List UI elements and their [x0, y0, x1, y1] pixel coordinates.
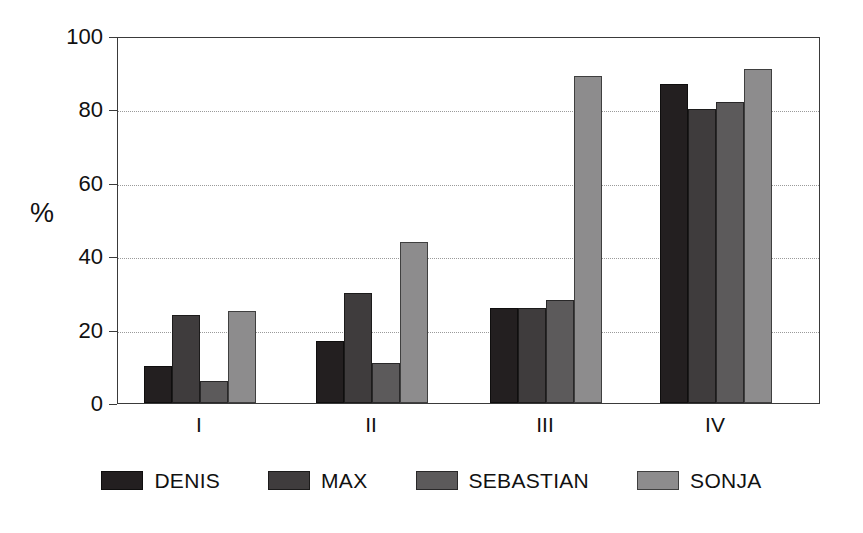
- y-axis-tick: [109, 331, 117, 332]
- bar-max-iv: [688, 109, 716, 403]
- x-axis-tick-label-i: I: [159, 414, 239, 435]
- y-axis-tick-label: 100: [0, 26, 103, 48]
- bar-denis-iv: [660, 84, 688, 403]
- legend-swatch-sebastian: [416, 471, 458, 490]
- y-axis-tick-label: 20: [0, 320, 103, 342]
- bar-sebastian-ii: [372, 363, 400, 403]
- bar-sebastian-iv: [716, 102, 744, 403]
- bar-max-iii: [518, 308, 546, 403]
- bar-sonja-iv: [744, 69, 772, 403]
- legend-swatch-sonja: [637, 471, 679, 490]
- bar-sebastian-iii: [546, 300, 574, 403]
- bar-max-i: [172, 315, 200, 403]
- bar-sebastian-i: [200, 381, 228, 403]
- legend-label: SONJA: [690, 470, 762, 491]
- chart-legend: DENISMAXSEBASTIANSONJA: [0, 470, 863, 491]
- bar-sonja-ii: [400, 242, 428, 403]
- legend-item-max: MAX: [268, 470, 367, 491]
- y-axis-tick-label: 0: [0, 393, 103, 415]
- x-axis-tick-label-iv: IV: [675, 414, 755, 435]
- y-axis-tick: [109, 404, 117, 405]
- bar-sonja-iii: [574, 76, 602, 403]
- x-axis-tick-label-ii: II: [331, 414, 411, 435]
- y-axis-tick: [109, 110, 117, 111]
- bar-denis-ii: [316, 341, 344, 403]
- y-axis-tick-label: 40: [0, 246, 103, 268]
- legend-item-sebastian: SEBASTIAN: [416, 470, 590, 491]
- bar-sonja-i: [228, 311, 256, 403]
- x-axis-tick-label-iii: III: [505, 414, 585, 435]
- bar-denis-iii: [490, 308, 518, 403]
- y-axis-tick: [109, 184, 117, 185]
- legend-label: MAX: [321, 470, 367, 491]
- y-axis-tick: [109, 257, 117, 258]
- bar-chart: % 020406080100 IIIIIIIV DENISMAXSEBASTIA…: [0, 0, 863, 533]
- bar-max-ii: [344, 293, 372, 403]
- plot-area: [117, 37, 820, 404]
- legend-item-sonja: SONJA: [637, 470, 762, 491]
- legend-item-denis: DENIS: [101, 470, 220, 491]
- y-axis-tick: [109, 37, 117, 38]
- legend-swatch-max: [268, 471, 310, 490]
- legend-label: SEBASTIAN: [469, 470, 590, 491]
- legend-label: DENIS: [154, 470, 220, 491]
- legend-swatch-denis: [101, 471, 143, 490]
- y-axis-tick-label: 60: [0, 173, 103, 195]
- y-axis-title: %: [30, 200, 54, 227]
- y-axis-tick-label: 80: [0, 99, 103, 121]
- bar-denis-i: [144, 366, 172, 403]
